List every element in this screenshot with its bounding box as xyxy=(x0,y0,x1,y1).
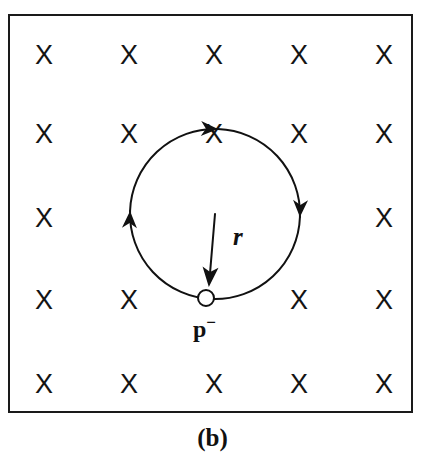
particle-charge-sign: − xyxy=(206,313,216,332)
field-x-mark: X xyxy=(35,42,53,69)
field-x-mark: X xyxy=(375,121,393,148)
field-x-mark: X xyxy=(120,287,138,314)
field-x-mark: X xyxy=(290,287,308,314)
field-x-mark: X xyxy=(35,121,53,148)
field-x-mark: X xyxy=(375,42,393,69)
radius-label: r xyxy=(233,224,243,249)
field-x-mark: X xyxy=(290,371,308,398)
field-x-mark: X xyxy=(290,42,308,69)
particle-symbol: p xyxy=(193,316,206,342)
field-region-box: XXXXXXXXXXXXXXXXXXXXX xyxy=(8,14,413,413)
particle-label: p− xyxy=(193,317,216,341)
field-x-mark: X xyxy=(205,42,223,69)
field-x-mark: X xyxy=(120,121,138,148)
field-x-mark: X xyxy=(290,121,308,148)
field-x-mark: X xyxy=(35,287,53,314)
field-x-mark: X xyxy=(120,371,138,398)
field-x-mark: X xyxy=(375,371,393,398)
field-x-mark: X xyxy=(120,42,138,69)
field-x-mark: X xyxy=(35,371,53,398)
panel-caption: (b) xyxy=(0,424,425,452)
physics-figure: XXXXXXXXXXXXXXXXXXXXX r p− (b) xyxy=(0,0,425,458)
field-x-mark: X xyxy=(35,205,53,232)
field-x-mark: X xyxy=(205,371,223,398)
field-x-mark: X xyxy=(375,287,393,314)
field-x-mark: X xyxy=(375,205,393,232)
field-x-mark: X xyxy=(205,121,223,148)
